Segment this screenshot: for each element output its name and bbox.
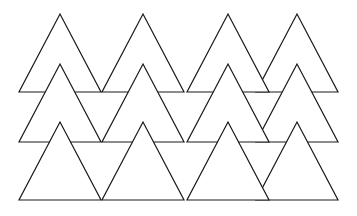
triangle-rows xyxy=(19,14,338,200)
triangle-diagram xyxy=(0,0,357,216)
